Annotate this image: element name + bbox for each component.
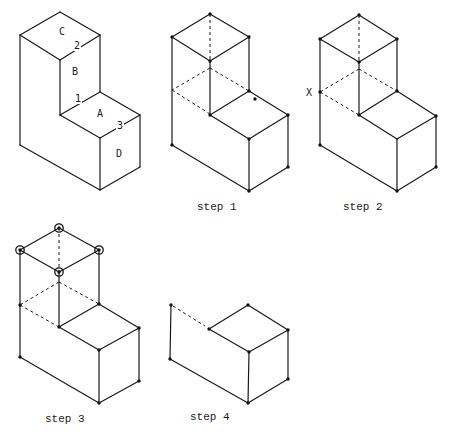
vertex-dot [395, 37, 398, 40]
vertex-dot [247, 350, 250, 353]
vertex-dot [97, 348, 100, 351]
visible-edge [59, 228, 99, 250]
vertex-dot [18, 355, 21, 358]
visible-edge [172, 37, 210, 61]
visible-edge [99, 328, 139, 350]
vertex-dot [286, 377, 289, 380]
vertex-dot [137, 326, 140, 329]
visible-edge [99, 381, 139, 403]
hidden-edge [59, 282, 99, 304]
visible-edge [172, 14, 210, 37]
hidden-edge [320, 69, 359, 92]
visible-edge [172, 145, 249, 191]
vertex-dot [286, 165, 289, 168]
figure-original-solid: 213CBAD [20, 12, 140, 190]
visible-edge [20, 357, 99, 403]
vertex-dot [357, 60, 360, 63]
visible-edge [210, 14, 249, 37]
vertex-dot [247, 189, 250, 192]
face-label: B [72, 66, 78, 77]
vertex-dot [246, 401, 249, 404]
hidden-edge [320, 92, 359, 115]
vertex-dot [18, 303, 21, 306]
vertex-dot [170, 35, 173, 38]
vertex-dot [57, 270, 60, 273]
vertex-dot [253, 97, 256, 100]
edge-label: 2 [74, 40, 80, 51]
visible-edge [249, 167, 288, 191]
vertex-dot [207, 327, 210, 330]
visible-edge [20, 12, 60, 35]
figure-step-2: Xstep 2 [306, 13, 438, 213]
visible-edge [359, 115, 397, 139]
hidden-edge [359, 69, 397, 91]
visible-edge [248, 379, 288, 403]
point-label: X [306, 87, 312, 98]
vertex-dot [246, 303, 249, 306]
visible-edge [209, 329, 249, 352]
visible-edge [359, 39, 397, 62]
visible-edge [210, 37, 249, 61]
vertex-dot [434, 114, 437, 117]
hidden-edge [210, 68, 249, 91]
vertex-dot [168, 357, 171, 360]
face-label: D [116, 148, 122, 159]
vertex-dot [137, 379, 140, 382]
step-caption: step 3 [45, 413, 85, 425]
figure-step-3: step 3 [16, 224, 141, 425]
vertex-dot [18, 248, 21, 251]
visible-edge [320, 145, 397, 191]
visible-edge [359, 91, 397, 115]
vertex-dot [247, 137, 250, 140]
visible-edge [99, 304, 139, 328]
vertex-dot [208, 113, 211, 116]
vertex-dot [395, 189, 398, 192]
vertex-dot [286, 328, 289, 331]
visible-edge [248, 305, 288, 330]
vertex-dot [247, 89, 250, 92]
visible-edge [170, 305, 171, 359]
visible-edge [397, 116, 436, 139]
visible-edge [249, 91, 288, 115]
hidden-edge [173, 306, 205, 326]
vertex-dot [357, 13, 360, 16]
visible-edge [210, 115, 249, 139]
visible-edge [249, 330, 288, 352]
figure-step-1: step 1 [170, 12, 289, 213]
hidden-edge [172, 68, 210, 90]
visible-edge [249, 115, 288, 139]
face-label: A [97, 108, 103, 119]
hidden-edge [20, 282, 59, 305]
visible-edge [210, 91, 249, 115]
visible-edge [397, 91, 436, 116]
visible-edge [59, 304, 99, 327]
step-caption: step 2 [343, 201, 383, 213]
vertex-dot [286, 113, 289, 116]
visible-edge [60, 12, 100, 35]
visible-edge [100, 167, 140, 190]
vertex-dot [247, 35, 250, 38]
vertex-dot [169, 303, 172, 306]
face-label: C [59, 26, 65, 37]
vertex-dot [170, 143, 173, 146]
visible-edge [59, 250, 99, 272]
visible-edge [170, 359, 248, 403]
vertex-dot [434, 165, 437, 168]
visible-edge [100, 92, 140, 115]
visible-edge [248, 352, 249, 403]
vertex-dot [208, 12, 211, 15]
vertex-dot [318, 90, 321, 93]
visible-edge [20, 228, 59, 250]
vertex-dot [318, 37, 321, 40]
visible-edge [20, 250, 59, 272]
visible-edge [60, 115, 100, 138]
hidden-edge [20, 305, 59, 327]
vertex-dot [395, 89, 398, 92]
vertex-dot [97, 248, 100, 251]
edge-label: 1 [75, 93, 81, 104]
visible-edge [59, 327, 99, 350]
visible-edge [320, 39, 359, 62]
step-caption: step 1 [197, 201, 237, 213]
visible-edge [397, 167, 436, 191]
diagram-canvas: 213CBAD step 1 Xstep 2 step 3 step 4 [0, 0, 452, 436]
